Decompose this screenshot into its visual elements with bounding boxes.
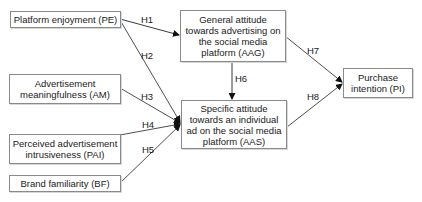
node-pi-label: Purchase intention (PI) [346, 72, 410, 94]
edge-label-h7: H7 [307, 46, 319, 56]
node-pai-label: Perceived advertisement intrusiveness (P… [12, 138, 118, 160]
node-bf-label: Brand familiarity (BF) [20, 178, 109, 189]
edge-label-h4: H4 [142, 120, 154, 130]
node-pai: Perceived advertisement intrusiveness (P… [9, 134, 121, 164]
node-pe: Platform enjoyment (PE) [10, 11, 121, 28]
node-pi: Purchase intention (PI) [343, 68, 413, 98]
node-aag: General attitude towards advertising on … [180, 10, 286, 62]
node-aas-label: Specific attitude towards an individual … [184, 103, 284, 147]
node-am-label: Advertisement meaningfulness (AM) [12, 78, 118, 100]
node-bf: Brand familiarity (BF) [9, 175, 121, 192]
node-pe-label: Platform enjoyment (PE) [14, 14, 117, 25]
edge-label-h2: H2 [141, 51, 153, 61]
node-am: Advertisement meaningfulness (AM) [9, 74, 121, 104]
edge-h7 [285, 36, 342, 82]
edge-label-h1: H1 [141, 15, 153, 25]
edge-label-h8: H8 [307, 92, 319, 102]
edge-h2 [120, 20, 180, 122]
edge-label-h6: H6 [235, 74, 247, 84]
node-aag-label: General attitude towards advertising on … [183, 14, 283, 58]
node-aas: Specific attitude towards an individual … [181, 100, 287, 149]
edge-label-h3: H3 [141, 92, 153, 102]
edge-label-h5: H5 [142, 145, 154, 155]
